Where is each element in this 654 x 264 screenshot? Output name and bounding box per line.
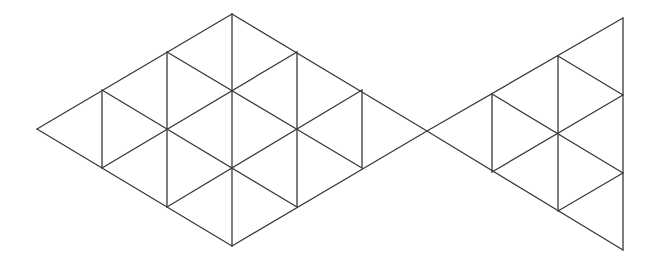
fish-body-rhombus xyxy=(37,14,427,246)
body-edge xyxy=(232,14,427,131)
body-edge xyxy=(37,14,232,129)
body-edge xyxy=(37,129,232,246)
body-edge xyxy=(167,52,362,168)
body-edge xyxy=(167,90,362,207)
body-edge xyxy=(102,52,297,168)
body-edge xyxy=(102,90,297,207)
tail-edge xyxy=(558,173,623,211)
tail-edge xyxy=(558,56,623,95)
fish-triangle-diagram xyxy=(0,0,654,264)
diagram-svg xyxy=(0,0,654,264)
fish-tail-triangle xyxy=(427,18,623,250)
